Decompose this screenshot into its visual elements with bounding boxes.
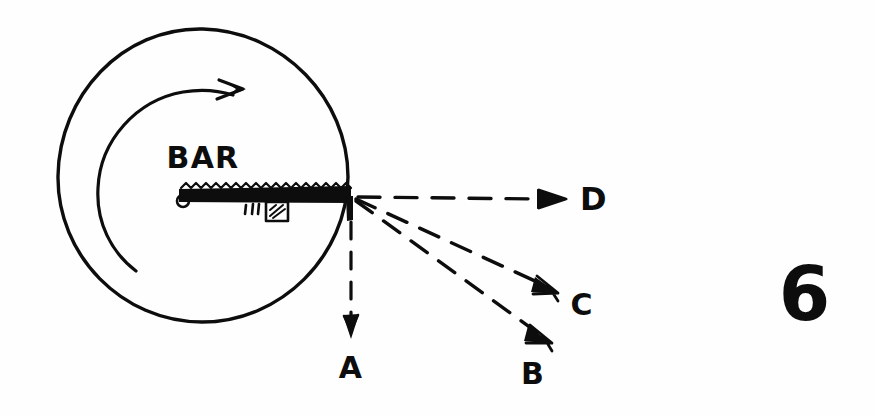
figure-number: 6: [779, 251, 832, 337]
bar-block-marker: [245, 202, 288, 221]
figure-canvas: BAR A: [0, 0, 875, 417]
trajectory-a-label: A: [339, 350, 363, 385]
trajectory-d: [358, 189, 568, 209]
physics-sketch-diagram: BAR A: [0, 0, 875, 417]
rotation-direction-arc: [98, 80, 246, 271]
rotating-disk: [58, 29, 348, 322]
bar-label: BAR: [167, 140, 240, 175]
trajectory-a: [343, 222, 359, 339]
trajectory-c: [356, 199, 559, 301]
trajectory-d-label: D: [580, 180, 608, 218]
trajectory-c-label: C: [570, 287, 593, 322]
trajectory-b-label: B: [521, 356, 545, 391]
